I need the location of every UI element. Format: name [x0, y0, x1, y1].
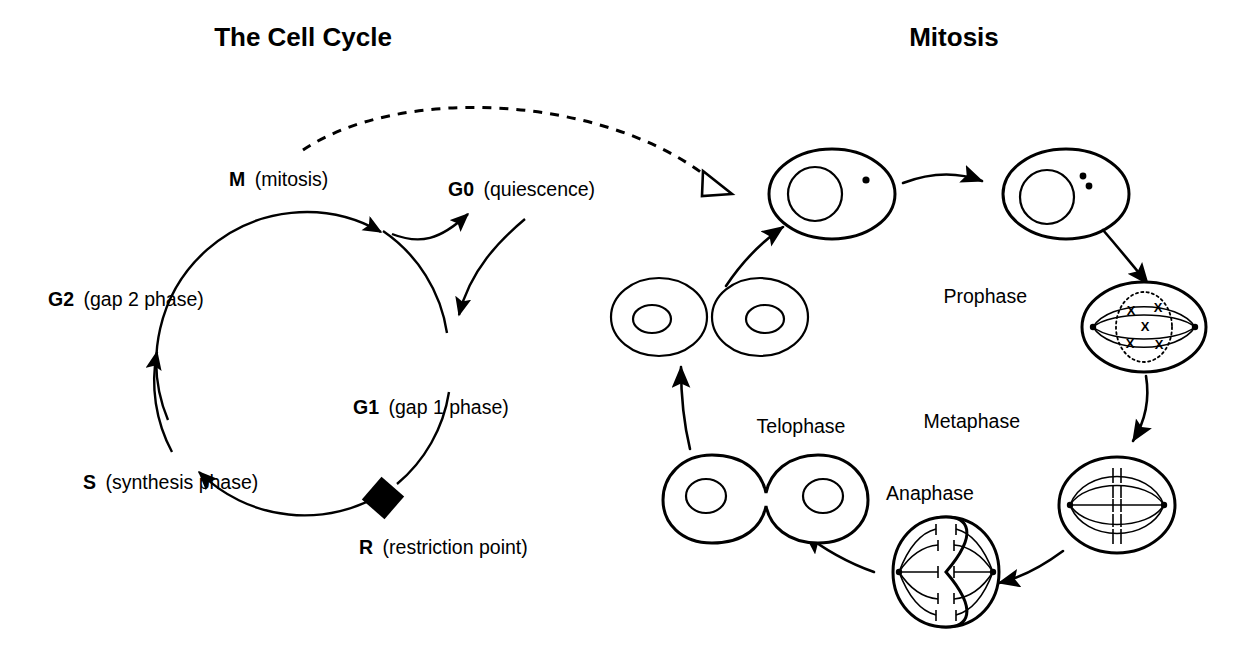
mitosis-title: Mitosis: [909, 22, 999, 52]
cell-cycle-ring: [154, 212, 449, 515]
label-g1-abbr: G1: [353, 396, 379, 418]
spindle-pole-dot: [990, 569, 996, 575]
centrosome-dot: [1086, 183, 1093, 190]
arc-cycle-to-g0: [392, 214, 468, 239]
chromosome-x: X: [1154, 300, 1163, 315]
daughter-nucleus: [686, 479, 726, 513]
arc-m-to-branch: [383, 231, 447, 333]
label-g2-abbr: G2: [48, 288, 74, 310]
mitosis-daughter-cells: [611, 278, 808, 356]
arrow-interphase-to-interphase2: [903, 174, 982, 183]
chromosome-x: X: [1141, 319, 1150, 334]
label-g1-name: (gap 1 phase): [388, 396, 508, 418]
g0-branch: [392, 214, 525, 315]
mitosis-cell-interphase-g1: [769, 149, 895, 239]
nucleus: [1020, 170, 1074, 224]
nucleus: [746, 305, 784, 333]
label-g2-phase: G2 (gap 2 phase): [48, 288, 204, 310]
spindle-pole-dot: [1161, 502, 1167, 508]
dashed-link-arrowhead-icon: [702, 171, 732, 196]
mitosis-cell-metaphase: [1059, 457, 1175, 553]
nucleus: [633, 305, 671, 333]
arrow-prophase-to-metaphase: [1133, 376, 1147, 441]
label-prophase: Prophase: [944, 285, 1027, 307]
dashed-link-path: [303, 107, 706, 176]
arc-g0-to-g1: [459, 219, 525, 315]
diagram-canvas: The Cell Cycle Mitosis M (mito: [0, 0, 1259, 653]
label-g1-phase: G1 (gap 1 phase): [353, 396, 509, 418]
nucleus: [788, 167, 842, 221]
label-s-abbr: S: [83, 471, 96, 493]
label-s-phase: S (synthesis phase): [83, 471, 258, 493]
label-metaphase: Metaphase: [924, 410, 1020, 432]
spindle-pole-dot: [1192, 324, 1198, 330]
label-s-name: (synthesis phase): [105, 471, 258, 493]
arrow-telophase-to-daughters: [681, 367, 690, 449]
centrosome-dot: [862, 176, 869, 183]
mitosis-cell-telophase: [663, 455, 868, 543]
chromosome-x: X: [1126, 336, 1135, 351]
label-g0-name: (quiescence): [483, 178, 595, 200]
label-g0-abbr: G0: [448, 178, 474, 200]
chromosome-x: X: [1127, 303, 1136, 318]
label-r-name: (restriction point): [383, 536, 528, 558]
label-m-abbr: M: [229, 168, 245, 190]
label-r-abbr: R: [359, 536, 373, 558]
spindle-pole-dot: [1067, 502, 1073, 508]
label-m-name: (mitosis): [255, 168, 329, 190]
label-m-phase: M (mitosis): [229, 168, 328, 190]
arc-g2-to-m: [156, 212, 381, 420]
spindle-pole-dot: [1090, 324, 1096, 330]
cell-cycle-title: The Cell Cycle: [214, 22, 392, 52]
centrosome-dot: [1080, 173, 1087, 180]
arrow-interphase2-to-prophase: [1103, 230, 1148, 284]
spindle-pole-dot: [896, 569, 902, 575]
label-g0-phase: G0 (quiescence): [448, 178, 595, 200]
label-anaphase: Anaphase: [886, 482, 974, 504]
cell-cycle-mitosis-figure: The Cell Cycle Mitosis M (mito: [0, 0, 1259, 653]
mitosis-cell-interphase-s-g2: [1003, 149, 1129, 239]
mitosis-cell-prophase: X X X X X: [1082, 282, 1206, 372]
mitosis-cell-anaphase: [893, 517, 999, 627]
label-g2-name: (gap 2 phase): [83, 288, 203, 310]
daughter-nucleus: [803, 479, 843, 513]
arrow-metaphase-to-anaphase: [999, 551, 1063, 583]
label-r-point: R (restriction point): [359, 536, 528, 558]
label-telophase: Telophase: [757, 415, 846, 437]
chromosome-x: X: [1155, 337, 1164, 352]
